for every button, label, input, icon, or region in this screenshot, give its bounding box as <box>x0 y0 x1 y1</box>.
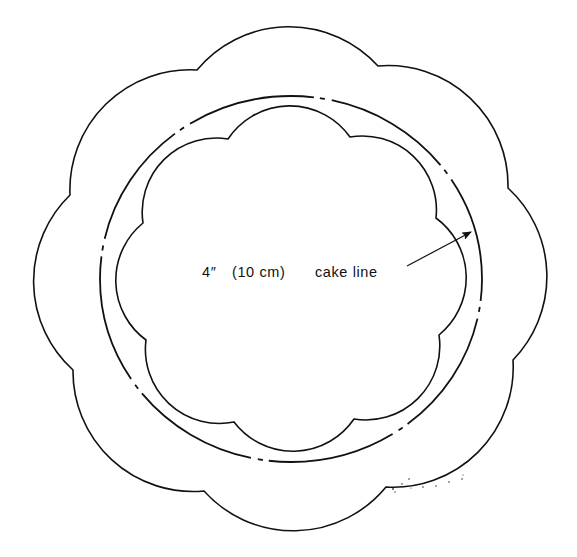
cake-template-diagram: 4″ (10 cm) cake line <box>0 0 577 557</box>
annotation-label: 4″ (10 cm) cake line <box>202 264 378 280</box>
cake-line-circle <box>100 96 482 462</box>
size-label: 4″ <box>202 264 216 280</box>
inner-scalloped-cake-outline <box>116 106 466 451</box>
callout-arrow-icon <box>407 232 471 266</box>
cake-line-label: cake line <box>315 264 378 280</box>
outer-scalloped-board-outline <box>34 27 547 531</box>
print-speckles <box>392 474 464 492</box>
metric-size-label: (10 cm) <box>232 264 285 280</box>
